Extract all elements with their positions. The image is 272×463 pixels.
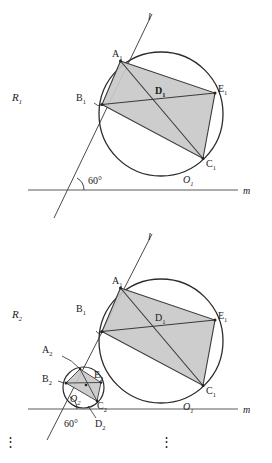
region-label-r2: R2 — [11, 308, 23, 322]
leader-b2-panel2 — [58, 381, 64, 383]
point-label-o2-panel2: O2 — [70, 393, 81, 406]
point-e2-panel2 — [100, 381, 103, 384]
angle-label-panel2: 60° — [64, 418, 78, 429]
ellipsis-right: ⋮ — [160, 434, 173, 449]
point-label-b1-panel1: B1 — [76, 92, 86, 105]
point-c1-panel1 — [202, 157, 205, 160]
point-c1-panel2 — [202, 384, 205, 387]
line-m-label-panel2: m — [243, 404, 250, 415]
point-label-a1-panel2: A1 — [112, 275, 122, 288]
point-label-d2-panel2: D2 — [95, 418, 105, 431]
point-label-c1-panel1: C1 — [206, 158, 216, 171]
shaded-quad-big-panel2 — [102, 288, 215, 386]
shaded-quad-panel1 — [102, 61, 215, 159]
point-b1-panel1 — [101, 103, 104, 106]
geometry-figure-root: R1 l m 60° A1 B1 C1 D1 E1 O1 — [0, 0, 272, 463]
point-a2-panel2 — [79, 368, 82, 371]
point-label-c1-panel2: C1 — [206, 385, 216, 398]
panel-r2: R2 l m 60° A1 B1 C1 D1 E1 O1 A2 B2 C2 D2… — [11, 231, 250, 440]
point-d2-panel2 — [85, 384, 88, 387]
panel-r1: R1 l m 60° A1 B1 C1 D1 E1 O1 — [11, 11, 250, 218]
point-label-o1-panel1: O1 — [183, 174, 193, 187]
point-label-e1-panel1: E1 — [218, 83, 227, 96]
point-label-e1-panel2: E1 — [218, 310, 227, 323]
line-l-label-panel1: l — [148, 11, 151, 22]
point-label-b2-panel2: B2 — [42, 373, 52, 386]
point-label-a2-panel2: A2 — [42, 344, 52, 357]
diagonal-b2e2-panel2 — [66, 383, 101, 384]
point-label-o1-panel2: O1 — [183, 401, 193, 414]
point-b2-panel2 — [65, 382, 68, 385]
point-label-a1-panel1: A1 — [112, 48, 122, 61]
leader-d2-panel2 — [88, 406, 96, 418]
point-label-b1-panel2: B1 — [76, 303, 86, 316]
leader-a2-panel2 — [62, 356, 79, 368]
point-label-e2-panel2: E2 — [94, 369, 103, 382]
geometry-diagram-svg: R1 l m 60° A1 B1 C1 D1 E1 O1 — [0, 0, 272, 463]
point-label-c2-panel2: C2 — [97, 400, 107, 413]
region-label-r1: R1 — [11, 91, 22, 105]
line-l-label-panel2: l — [148, 231, 151, 242]
point-e1-panel1 — [214, 92, 217, 95]
point-e1-panel2 — [214, 319, 217, 322]
angle-arc-panel1 — [77, 178, 84, 190]
line-m-label-panel1: m — [243, 185, 250, 196]
angle-label-panel1: 60° — [88, 175, 102, 186]
ellipsis-left: ⋮ — [4, 434, 17, 449]
